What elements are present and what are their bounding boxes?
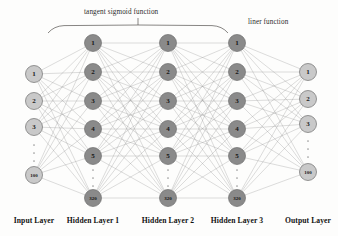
neural-network-diagram: 123100123453201234532012345320123100 tan… <box>0 0 338 236</box>
ellipsis-dot <box>167 177 169 179</box>
connection-edge <box>243 130 302 192</box>
connection-edge <box>245 104 300 122</box>
neuron-label: 5 <box>91 152 95 160</box>
ellipsis-dot <box>33 144 35 146</box>
layer-caption-output: Output Layer <box>285 216 331 225</box>
neuron-node: 4 <box>85 121 102 138</box>
connection-edge <box>242 79 303 165</box>
neuron-label: 1 <box>91 39 95 47</box>
neuron-label: 1 <box>166 39 170 47</box>
hidden-layers-brace <box>48 18 228 33</box>
neuron-node: 1 <box>229 35 246 52</box>
connection-edge <box>245 125 299 129</box>
neuron-label: 4 <box>91 125 95 133</box>
neuron-label: 100 <box>304 170 312 175</box>
neuron-node: 100 <box>300 164 317 181</box>
neuron-node: 2 <box>85 64 102 81</box>
ellipsis-dot <box>307 156 309 158</box>
connection-edge <box>42 47 86 70</box>
neuron-node: 1 <box>300 64 317 81</box>
neuron-node: 5 <box>160 148 177 165</box>
neuron-node: 2 <box>160 64 177 81</box>
ellipsis-dot <box>236 177 238 179</box>
connection-edge <box>42 105 86 126</box>
connection-edge <box>245 175 300 195</box>
layer-caption-input: Input Layer <box>14 216 55 225</box>
neuron-node: 4 <box>229 121 246 138</box>
neuron-label: 1 <box>32 70 36 78</box>
neuron-node: 5 <box>85 148 102 165</box>
ellipsis-dot <box>92 177 94 179</box>
connection-edge <box>245 158 299 170</box>
neuron-node: 320 <box>85 190 102 207</box>
neuron-label: 5 <box>235 152 239 160</box>
ellipsis-dot <box>92 185 94 187</box>
neuron-node: 3 <box>85 93 102 110</box>
connection-edge <box>38 82 90 191</box>
neuron-node: 2 <box>229 64 246 81</box>
connection-edge <box>241 50 304 164</box>
neuron-label: 100 <box>30 173 38 178</box>
neuron-label: 5 <box>166 152 170 160</box>
neuron-nodes: 123100123453201234532012345320123100 <box>26 35 317 207</box>
neuron-node: 4 <box>160 121 177 138</box>
neuron-node: 320 <box>160 190 177 207</box>
neuron-label: 1 <box>235 39 239 47</box>
layer-caption-hidden1: Hidden Layer 1 <box>67 216 119 225</box>
connection-edge <box>42 131 86 153</box>
connection-edge <box>242 106 303 191</box>
activation-label-hidden: tangent sigmoid function <box>84 8 158 16</box>
neuron-node: 3 <box>229 93 246 110</box>
network-graph: 123100123453201234532012345320123100 <box>0 0 338 236</box>
connection-edge <box>245 75 300 96</box>
connection-edge <box>39 50 88 120</box>
neuron-label: 4 <box>166 125 170 133</box>
neuron-node: 1 <box>26 66 43 83</box>
neuron-label: 2 <box>235 68 239 76</box>
connection-edge <box>39 134 87 192</box>
neuron-label: 3 <box>306 120 310 128</box>
connection-edge <box>38 108 88 190</box>
connection-edge <box>40 78 87 121</box>
brace-curve <box>48 25 228 33</box>
neuron-node: 1 <box>85 35 102 52</box>
neuron-label: 2 <box>166 68 170 76</box>
neuron-label: 1 <box>306 68 310 76</box>
neuron-node: 100 <box>26 167 43 184</box>
connection-edge <box>39 108 87 169</box>
layer-caption-hidden3: Hidden Layer 3 <box>211 216 263 225</box>
connection-edge <box>42 104 85 123</box>
ellipsis-dot <box>236 169 238 171</box>
ellipsis-dot <box>307 140 309 142</box>
neuron-label: 2 <box>306 95 310 103</box>
neuron-node: 2 <box>26 93 43 110</box>
neuron-label: 320 <box>89 196 97 201</box>
ellipsis-dot <box>307 148 309 150</box>
connection-edge <box>244 104 302 150</box>
ellipsis-dot <box>33 152 35 154</box>
neuron-node: 3 <box>26 119 43 136</box>
ellipsis-dot <box>236 185 238 187</box>
neuron-node: 2 <box>300 91 317 108</box>
neuron-label: 320 <box>164 196 172 201</box>
connection-edge <box>43 72 85 73</box>
connection-edge <box>245 75 300 98</box>
neuron-label: 4 <box>235 125 239 133</box>
neuron-label: 320 <box>233 196 241 201</box>
ellipsis-dot <box>167 185 169 187</box>
connection-edge <box>245 46 300 69</box>
neuron-label: 3 <box>166 97 170 105</box>
neuron-node: 3 <box>160 93 177 110</box>
connection-edge <box>244 133 300 167</box>
neuron-label: 3 <box>91 97 95 105</box>
activation-label-output: liner function <box>248 18 288 26</box>
connection-edge <box>42 76 86 98</box>
layer-caption-hidden2: Hidden Layer 2 <box>142 216 194 225</box>
ellipsis-dot <box>167 169 169 171</box>
neuron-label: 3 <box>235 97 239 105</box>
ellipsis-dot <box>33 160 35 162</box>
connection-edge <box>42 159 85 173</box>
neuron-node: 5 <box>229 148 246 165</box>
connection-edge <box>243 107 302 166</box>
connection-edge <box>241 79 304 190</box>
